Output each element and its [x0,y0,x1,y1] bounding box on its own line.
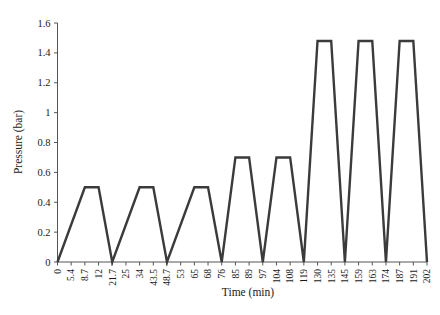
y-tick-label: 0.4 [37,197,51,208]
y-tick-label: 1.4 [37,47,51,58]
x-axis: 05.48.71221.7253443.548.7536568768589971… [53,262,433,286]
x-tick-label: 85 [231,269,241,279]
x-tick-label: 43.5 [149,269,159,286]
x-tick-label: 8.7 [80,269,90,281]
y-axis-title: Pressure (bar) [12,110,25,174]
x-tick-label: 145 [340,269,350,284]
y-tick-label: 1.2 [37,77,50,88]
x-tick-label: 119 [299,269,309,283]
x-tick-label: 135 [327,269,337,284]
x-tick-label: 68 [203,269,213,279]
x-tick-label: 191 [409,269,419,284]
y-tick-label: 0.8 [37,137,50,148]
pressure-time-chart: 00.20.40.60.811.21.41.6 05.48.71221.7253… [0,0,440,315]
y-tick-label: 1.6 [37,18,50,29]
x-tick-label: 163 [368,269,378,284]
x-tick-label: 159 [354,269,364,284]
x-tick-label: 76 [217,269,227,279]
chart-canvas: 00.20.40.60.811.21.41.6 05.48.71221.7253… [0,0,440,315]
x-tick-label: 89 [244,269,254,279]
y-axis: 00.20.40.60.811.21.41.6 [37,18,57,268]
x-tick-label: 34 [135,269,145,279]
x-tick-label: 202 [422,269,432,284]
x-tick-label: 174 [381,269,391,284]
y-tick-label: 0 [45,257,50,268]
x-tick-label: 48.7 [162,269,172,286]
y-tick-label: 0.2 [37,227,50,238]
y-tick-label: 1 [45,107,50,118]
x-tick-label: 130 [313,269,323,284]
x-tick-label: 97 [258,269,268,279]
pressure-series-line [58,41,428,262]
y-tick-label: 0.6 [37,167,50,178]
x-tick-label: 5.4 [66,269,76,281]
x-tick-label: 21.7 [108,269,118,286]
x-tick-label: 12 [94,269,104,279]
x-tick-label: 65 [190,269,200,279]
x-tick-label: 104 [272,269,282,284]
x-tick-label: 187 [395,269,405,284]
x-tick-label: 53 [176,269,186,279]
x-tick-label: 0 [53,269,63,274]
x-tick-label: 108 [285,269,295,284]
x-tick-label: 25 [121,269,131,279]
x-axis-title: Time (min) [222,286,274,299]
